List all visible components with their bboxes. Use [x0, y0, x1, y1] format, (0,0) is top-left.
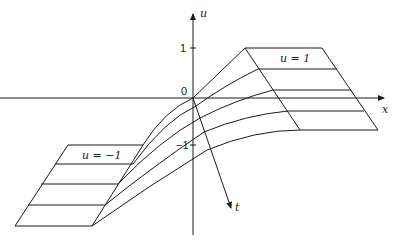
- t-axis-label: t: [235, 202, 239, 213]
- upper-plateau: [245, 48, 378, 130]
- upper-plateau-label: u = 1: [280, 53, 310, 64]
- t-axis: [193, 98, 231, 208]
- lower-plateau-label: u = −1: [82, 150, 122, 161]
- transition-curves: [92, 48, 300, 226]
- surface-diagram: [0, 0, 401, 245]
- tick-label-1: 1: [180, 43, 186, 54]
- x-axis-label: x: [382, 104, 388, 115]
- tick-label-0: 0: [181, 86, 187, 97]
- u-axis-label: u: [200, 8, 207, 19]
- tick-label-minus-1: −1: [176, 140, 189, 151]
- lower-plateau: [15, 145, 143, 226]
